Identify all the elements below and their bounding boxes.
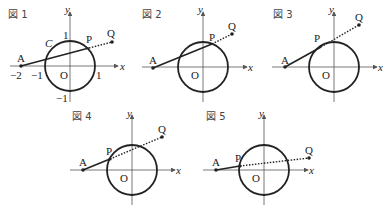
segment-pq bbox=[321, 25, 359, 47]
label-p: P bbox=[209, 31, 215, 43]
label-x: x bbox=[119, 60, 125, 72]
label-x: x bbox=[308, 164, 314, 176]
figure-4-title: 図 4 bbox=[72, 111, 92, 122]
tick-x-neg2: −2 bbox=[10, 69, 22, 81]
figure-2: 図 2 A P Q O x y bbox=[142, 3, 253, 102]
label-a: A bbox=[149, 54, 157, 66]
label-a: A bbox=[17, 52, 25, 64]
point-q bbox=[160, 135, 164, 139]
label-p: P bbox=[86, 33, 92, 45]
label-q: Q bbox=[228, 20, 236, 32]
figure-5-title: 図 5 bbox=[206, 111, 226, 122]
point-a bbox=[19, 64, 23, 68]
segment-pq bbox=[240, 158, 309, 166]
label-q: Q bbox=[355, 11, 363, 23]
label-x: x bbox=[175, 164, 181, 176]
point-q bbox=[230, 32, 234, 36]
point-a bbox=[151, 66, 155, 70]
label-x: x bbox=[377, 61, 383, 73]
label-p: P bbox=[235, 152, 241, 164]
figure-4: 図 4 A P Q O x y bbox=[70, 107, 181, 205]
label-a: A bbox=[281, 54, 289, 66]
figure-1-title: 図 1 bbox=[8, 9, 28, 20]
tick-y-pos1: 1 bbox=[63, 29, 69, 41]
label-o: O bbox=[191, 69, 199, 81]
tick-x-neg1: −1 bbox=[31, 69, 43, 81]
label-p: P bbox=[314, 32, 320, 44]
label-o: O bbox=[60, 69, 68, 81]
label-y: y bbox=[328, 3, 334, 15]
label-a: A bbox=[212, 156, 220, 168]
figure-1: 図 1 A P Q C O x y −2 −1 1 1 −1 bbox=[8, 3, 125, 104]
figure-3: 図 3 A P Q O x y bbox=[272, 3, 383, 102]
figures-canvas: 図 1 A P Q C O x y −2 −1 1 1 −1 図 2 A P Q… bbox=[0, 0, 388, 208]
label-y: y bbox=[64, 3, 70, 15]
segment-pq bbox=[89, 42, 112, 48]
label-q: Q bbox=[158, 123, 166, 135]
point-q bbox=[357, 23, 361, 27]
label-y: y bbox=[197, 3, 203, 15]
label-p: P bbox=[106, 145, 112, 157]
label-x: x bbox=[247, 61, 253, 73]
point-q bbox=[110, 40, 114, 44]
point-p bbox=[108, 157, 111, 160]
segment-ap bbox=[285, 47, 321, 67]
label-c: C bbox=[45, 37, 53, 49]
label-q: Q bbox=[107, 27, 115, 39]
label-y: y bbox=[258, 107, 264, 119]
segment-ap bbox=[21, 48, 89, 66]
segment-ap bbox=[83, 159, 110, 170]
segment-pq bbox=[110, 137, 162, 159]
label-o: O bbox=[252, 172, 260, 184]
figure-5: 図 5 A P Q O x y bbox=[203, 107, 314, 205]
label-a: A bbox=[79, 156, 87, 168]
figure-3-title: 図 3 bbox=[273, 9, 293, 20]
tick-y-neg1: −1 bbox=[56, 92, 68, 104]
point-p bbox=[238, 164, 241, 167]
point-q bbox=[307, 156, 311, 160]
tick-x-pos1: 1 bbox=[96, 69, 102, 81]
label-o: O bbox=[120, 172, 128, 184]
label-y: y bbox=[126, 107, 132, 119]
point-a bbox=[214, 168, 218, 172]
label-o: O bbox=[322, 69, 330, 81]
label-q: Q bbox=[305, 144, 313, 156]
point-a bbox=[81, 168, 85, 172]
figure-2-title: 図 2 bbox=[142, 9, 162, 20]
